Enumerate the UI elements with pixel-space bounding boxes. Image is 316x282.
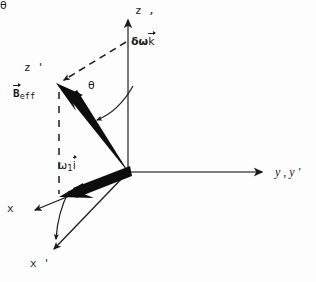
overarrow-bar-k bbox=[148, 33, 154, 34]
b-eff-subscript: eff bbox=[20, 91, 36, 101]
angle-label-theta-upper: θ bbox=[88, 80, 95, 91]
omega-symbol-text: ω bbox=[58, 159, 67, 172]
i-unit-vector: i bbox=[73, 160, 76, 171]
overarrow-bar-i bbox=[73, 157, 76, 158]
axis-label-y: y , y ' bbox=[275, 166, 300, 178]
k-unit-vector-text: k bbox=[148, 35, 154, 48]
delta-omega-text: δω bbox=[131, 35, 148, 48]
vector-diagram: z , δωk z ' Beff ω1i y , y ' x x ' θ θ bbox=[0, 0, 316, 282]
diagram-canvas bbox=[0, 0, 316, 282]
dashed-offset-to-beff-line bbox=[64, 42, 126, 80]
axis-label-x-prime: x ' bbox=[30, 258, 50, 269]
vector-label-omega1-i: ω1i bbox=[58, 160, 76, 173]
axis-label-x: x bbox=[7, 203, 14, 214]
axis-group bbox=[35, 20, 262, 249]
overarrow-bar-b bbox=[13, 85, 20, 86]
vector-label-b-eff: Beff bbox=[13, 88, 35, 101]
vector-group bbox=[56, 83, 132, 198]
k-unit-vector: k bbox=[148, 36, 154, 47]
i-unit-vector-text: i bbox=[73, 159, 76, 172]
angle-label-theta-lower: θ bbox=[0, 0, 7, 11]
b-symbol-text: B bbox=[13, 87, 20, 100]
axis-label-z: z , bbox=[135, 5, 155, 16]
axis-label-z-prime: z ' bbox=[24, 62, 44, 73]
b-symbol: B bbox=[13, 88, 20, 99]
vector-label-delta-omega-k: δωk bbox=[131, 36, 155, 47]
